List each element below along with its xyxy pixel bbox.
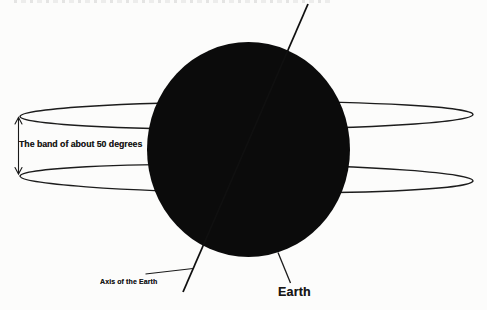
axis-pointer-line [146,269,194,275]
earth-label: Earth [278,286,311,298]
axis-label: Axis of the Earth [100,278,157,286]
scanned-diagram-page: The band of about 50 degrees Axis of the… [0,0,487,310]
earth-sphere [147,42,350,257]
earth-band-diagram [0,0,487,310]
band-label: The band of about 50 degrees [19,140,142,149]
earth-pointer-line [278,253,291,284]
